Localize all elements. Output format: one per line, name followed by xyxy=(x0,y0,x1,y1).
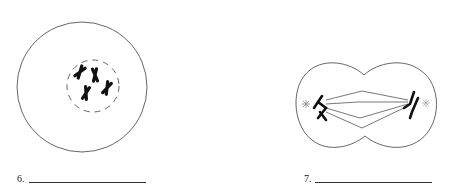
figure-6-answer-line[interactable] xyxy=(29,182,146,183)
chromosomes-left-pole xyxy=(314,96,326,120)
figure-7-cell xyxy=(296,63,437,148)
chromosomes-right-pole xyxy=(404,92,418,118)
chromosomes xyxy=(75,66,111,99)
spindle-fibers xyxy=(326,91,408,128)
figure-6-cell xyxy=(17,22,147,152)
figure-7-number: 7. xyxy=(304,173,312,184)
centrosome-right-icon xyxy=(422,99,430,107)
figure-7-answer-line[interactable] xyxy=(315,182,432,183)
figure-6-number: 6. xyxy=(17,173,25,184)
centrosome-left-icon xyxy=(302,100,310,108)
chromosome-icon xyxy=(83,87,90,100)
chromosome-icon xyxy=(103,82,112,95)
chromosome-icon xyxy=(75,66,85,78)
diagram-canvas xyxy=(0,0,456,193)
chromosome-icon xyxy=(92,69,97,81)
cell-membrane xyxy=(17,22,147,152)
